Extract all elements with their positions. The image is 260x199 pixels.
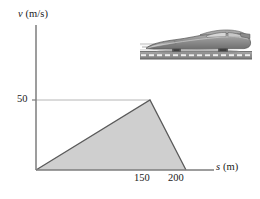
x-tick-label-200: 200 [168, 172, 184, 183]
land-speed-record-car-illustration [140, 22, 252, 67]
x-axis-label: s (m) [216, 161, 238, 172]
velocity-position-figure: v (m/s) s (m) 50 150 200 [0, 0, 260, 199]
velocity-area-fill [36, 100, 186, 170]
x-tick-label-150: 150 [134, 172, 150, 183]
y-axis-label: v (m/s) [18, 8, 48, 19]
y-tick-label-50: 50 [17, 93, 28, 104]
y-axis-label-units: (m/s) [23, 8, 48, 19]
x-axis-label-units: (m) [220, 161, 238, 172]
